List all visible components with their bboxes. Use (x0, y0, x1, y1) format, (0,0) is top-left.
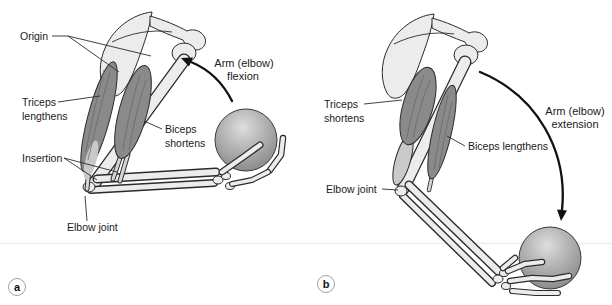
triceps-label-line1: Triceps (22, 96, 56, 108)
biceps-leader-line (144, 121, 162, 129)
origin-label: Origin (20, 30, 48, 42)
panel-b-illustration: Triceps shortens Biceps lengthens Elbow … (306, 0, 612, 305)
panel-badge-b: b (318, 276, 335, 293)
anatomy-figure: Origin Triceps lengthens Biceps shortens… (0, 0, 612, 305)
motion-label-line2: extension (551, 118, 598, 130)
olecranon (395, 186, 407, 196)
panel-badge-a-letter: a (14, 281, 21, 293)
elbow-joint-label: Elbow joint (326, 183, 377, 195)
motion-label-line1: Arm (elbow) (214, 57, 273, 69)
ball (215, 109, 277, 171)
triceps-label-line2: shortens (324, 112, 364, 124)
elbow-joint-leader-line (85, 196, 87, 221)
biceps-label-line1: Biceps (165, 123, 197, 135)
panel-badge-a: a (9, 279, 26, 296)
panel-b-extension: Triceps shortens Biceps lengthens Elbow … (306, 0, 612, 305)
panel-a-flexion: Origin Triceps lengthens Biceps shortens… (0, 0, 306, 305)
panel-a-illustration: Origin Triceps lengthens Biceps shortens… (0, 0, 306, 305)
forearm-bones (83, 172, 216, 192)
extension-arrowhead (557, 210, 567, 222)
triceps-label-line1: Triceps (324, 98, 358, 110)
elbow-joint-label: Elbow joint (67, 221, 118, 233)
panel-badge-b-letter: b (323, 278, 330, 290)
motion-label-line2: flexion (227, 70, 259, 82)
biceps-label: Biceps lengthens (468, 140, 548, 152)
triceps-leader-line (364, 100, 402, 104)
triceps-label-line2: lengthens (22, 110, 68, 122)
biceps-label-line2: shortens (165, 137, 205, 149)
insertion-label: Insertion (22, 152, 62, 164)
motion-label-line1: Arm (elbow) (545, 105, 604, 117)
forearm-bones (395, 185, 498, 283)
